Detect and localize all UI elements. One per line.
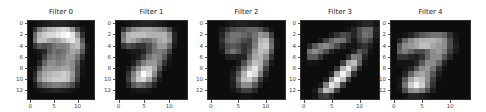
x-tick-label: 0 [113, 103, 125, 109]
y-tick-label: 10 [284, 76, 296, 82]
y-tick-label: 2 [11, 31, 23, 37]
y-tick-label: 4 [99, 43, 111, 49]
y-tick-label: 6 [374, 54, 386, 60]
y-tick-label: 0 [374, 20, 386, 26]
y-tick-label: 8 [284, 65, 296, 71]
heatmap-filter-1 [116, 21, 187, 99]
y-tick-label: 6 [284, 54, 296, 60]
y-tick-label: 0 [99, 20, 111, 26]
x-tick-label: 0 [205, 103, 217, 109]
x-tick-label: 5 [232, 103, 244, 109]
y-tick-label: 2 [99, 31, 111, 37]
y-tick-label: 12 [11, 87, 23, 93]
heatmap-filter-4 [391, 21, 470, 99]
panel-title: Filter 3 [301, 8, 379, 16]
x-tick-label: 5 [138, 103, 150, 109]
y-tick-label: 6 [99, 54, 111, 60]
panel-title: Filter 4 [391, 8, 470, 16]
y-tick-label: 6 [11, 54, 23, 60]
y-tick-label: 10 [191, 76, 203, 82]
y-tick-label: 8 [99, 65, 111, 71]
heatmap-cell [182, 93, 187, 99]
y-tick-label: 2 [374, 31, 386, 37]
y-tick-label: 8 [191, 65, 203, 71]
x-tick-label: 5 [416, 103, 428, 109]
y-tick-label: 12 [284, 87, 296, 93]
y-tick-label: 10 [11, 76, 23, 82]
heatmap-cell [280, 93, 286, 99]
y-tick-label: 4 [191, 43, 203, 49]
y-tick-label: 2 [284, 31, 296, 37]
panel-title: Filter 0 [28, 8, 94, 16]
x-tick-label: 10 [444, 103, 456, 109]
heatmap-cell [464, 93, 470, 99]
x-tick-label: 10 [163, 103, 175, 109]
x-tick-label: 5 [48, 103, 60, 109]
x-tick-label: 10 [260, 103, 272, 109]
y-tick-label: 4 [374, 43, 386, 49]
panel-title: Filter 1 [116, 8, 187, 16]
x-tick-label: 5 [326, 103, 338, 109]
y-tick-label: 0 [191, 20, 203, 26]
x-tick-label: 10 [72, 103, 84, 109]
x-tick-label: 0 [388, 103, 400, 109]
y-tick-label: 8 [374, 65, 386, 71]
y-tick-label: 6 [191, 54, 203, 60]
y-tick-label: 0 [11, 20, 23, 26]
y-tick-label: 10 [374, 76, 386, 82]
y-tick-label: 12 [374, 87, 386, 93]
y-tick-label: 0 [284, 20, 296, 26]
y-tick-label: 12 [191, 87, 203, 93]
heatmap-cell [89, 93, 94, 99]
y-tick-label: 10 [99, 76, 111, 82]
heatmap-filter-0 [28, 21, 94, 99]
heatmap-cell [373, 93, 379, 99]
heatmap-filter-2 [208, 21, 285, 99]
panel-title: Filter 2 [208, 8, 285, 16]
x-tick-label: 0 [24, 103, 36, 109]
y-tick-label: 4 [11, 43, 23, 49]
heatmap-filter-3 [301, 21, 379, 99]
y-tick-label: 12 [99, 87, 111, 93]
y-tick-label: 2 [191, 31, 203, 37]
x-tick-label: 0 [298, 103, 310, 109]
y-tick-label: 8 [11, 65, 23, 71]
x-tick-label: 10 [354, 103, 366, 109]
y-tick-label: 4 [284, 43, 296, 49]
